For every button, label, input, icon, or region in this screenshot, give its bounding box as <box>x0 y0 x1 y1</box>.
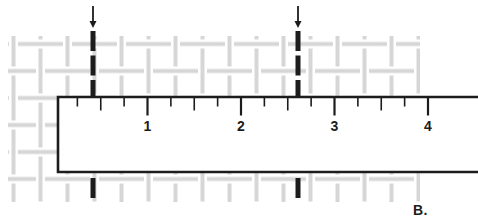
down-arrow-icon <box>295 21 302 28</box>
ruler-body <box>58 97 478 172</box>
ruler-number-1: 1 <box>144 118 152 134</box>
figure-canvas: 1234 B. <box>0 0 478 224</box>
down-arrow-icon <box>90 21 97 28</box>
figure-label: B. <box>413 202 443 218</box>
ruler-number-2: 2 <box>237 118 245 134</box>
ruler-number-3: 3 <box>331 118 339 134</box>
ruler-number-4: 4 <box>424 118 432 134</box>
ruler-measurement-diagram: 1234 <box>0 0 478 224</box>
